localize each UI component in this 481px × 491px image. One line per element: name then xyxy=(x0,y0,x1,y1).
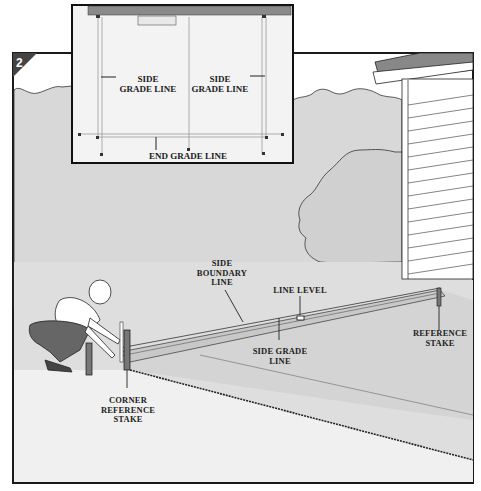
corner-reference-stake xyxy=(124,330,130,370)
ruler xyxy=(120,322,123,362)
reference-stake xyxy=(437,288,441,306)
label-side-grade-line: SIDE GRADE LINE xyxy=(250,347,310,366)
step-number: 2 xyxy=(16,56,23,70)
inset-diagram xyxy=(72,5,293,163)
label-corner-reference-stake: CORNER REFERENCE STAKE xyxy=(100,396,156,425)
label-reference-stake: REFERENCE STAKE xyxy=(412,329,468,348)
line-level xyxy=(297,316,304,320)
second-stake xyxy=(86,343,92,375)
label-side-boundary-line: SIDE BOUNDARY LINE xyxy=(192,259,252,288)
label-side-grade-line-right: SIDE GRADE LINE xyxy=(190,74,250,94)
label-side-grade-line-left: SIDE GRADE LINE xyxy=(118,74,178,94)
label-end-grade-line: END GRADE LINE xyxy=(138,151,238,161)
label-line-level: LINE LEVEL xyxy=(272,286,328,296)
